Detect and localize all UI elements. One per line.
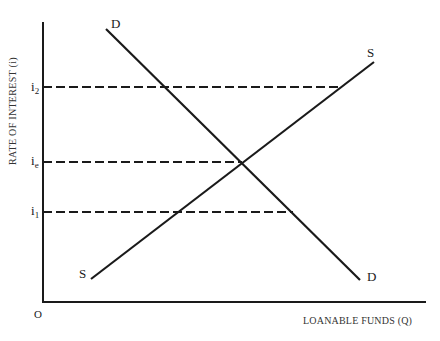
i1-label: i1 <box>31 203 39 220</box>
x-axis-label: LOANABLE FUNDS (Q) <box>303 315 412 326</box>
loanable-funds-chart: D D S S i2 ie i1 O RATE OF INTEREST (i) … <box>0 0 440 341</box>
supply-top-label: S <box>367 45 374 60</box>
y-axis-label: RATE OF INTEREST (i) <box>7 31 21 191</box>
supply-bottom-label: S <box>79 266 86 281</box>
demand-top-label: D <box>111 16 120 31</box>
origin-label: O <box>34 308 42 320</box>
demand-bottom-label: D <box>367 269 376 284</box>
supply-curve <box>91 62 374 279</box>
chart-canvas: D D S S i2 ie i1 O <box>0 0 440 341</box>
i2-label: i2 <box>31 79 39 96</box>
demand-curve <box>106 29 360 280</box>
ie-label: ie <box>31 153 39 170</box>
